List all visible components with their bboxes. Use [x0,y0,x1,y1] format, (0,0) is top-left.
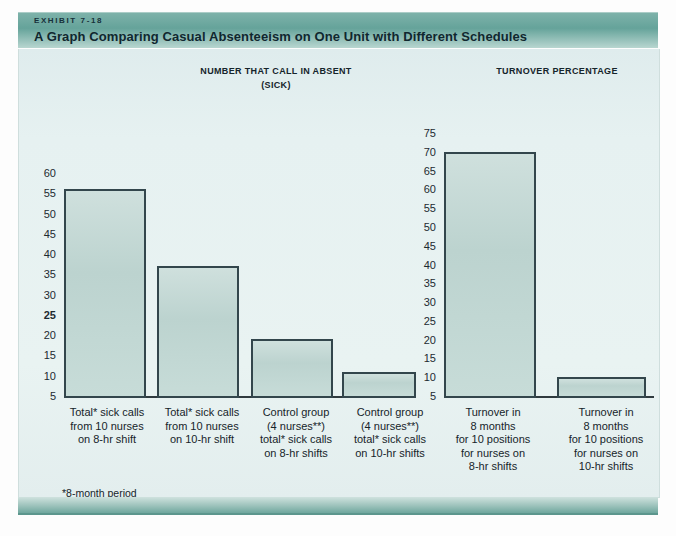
category-label-line: total* sick calls [248,433,344,447]
right-axis-tick-70: 70 [402,147,436,158]
right-axis-tick-35: 35 [402,278,436,289]
category-label-line: Control group [340,406,440,420]
category-label-line: from 10 nurses [58,420,156,434]
left-axis-tick-55: 55 [20,188,56,199]
category-label-1: Total* sick callsfrom 10 nurseson 8-hr s… [58,406,156,447]
category-label-2: Total* sick callsfrom 10 nurseson 10-hr … [152,406,252,447]
category-label-line: on 8-hr shifts [248,447,344,461]
right-axis-tick-15: 15 [402,353,436,364]
category-label-line: Total* sick calls [58,406,156,420]
category-label-line: 8-hr shifts [438,460,548,474]
left-axis-tick-15: 15 [20,350,56,361]
category-label-line: 8 months [438,420,548,434]
category-label-line: from 10 nurses [152,420,252,434]
exhibit-page: EXHIBIT 7-18 A Graph Comparing Casual Ab… [0,0,676,536]
category-label-line: Control group [248,406,344,420]
right-axis-tick-40: 40 [402,260,436,271]
bar-sick-calls-3 [251,339,333,398]
left-axis-tick-45: 45 [20,229,56,240]
left-axis-tick-60: 60 [20,168,56,179]
category-label-5: Turnover in8 monthsfor 10 positionsfor n… [438,406,548,474]
right-axis-tick-45: 45 [402,241,436,252]
category-label-line: for 10 positions [438,433,548,447]
left-axis-tick-40: 40 [20,249,56,260]
exhibit-title: A Graph Comparing Casual Absenteeism on … [34,29,527,44]
bar-sick-calls-1 [64,189,146,398]
right-chart-heading: TURNOVER PERCENTAGE [450,66,664,76]
category-label-line: Turnover in [438,406,548,420]
category-label-line: Turnover in [550,406,662,420]
left-axis-tick-30: 30 [20,290,56,301]
category-label-line: 8 months [550,420,662,434]
left-chart-plot: 60555045403530252015105 [64,100,416,397]
category-label-line: (4 nurses**) [340,420,440,434]
category-label-line: Total* sick calls [152,406,252,420]
left-axis-tick-25: 25 [20,310,56,321]
category-label-4: Control group(4 nurses**)total* sick cal… [340,406,440,460]
right-axis-tick-60: 60 [402,184,436,195]
category-label-line: on 10-hr shifts [340,447,440,461]
left-axis-tick-50: 50 [20,209,56,220]
right-axis-tick-20: 20 [402,335,436,346]
bar-turnover-2 [557,377,646,398]
category-label-line: on 10-hr shift [152,433,252,447]
footer-band [18,497,658,513]
left-axis-tick-35: 35 [20,269,56,280]
category-label-line: 10-hr shifts [550,460,662,474]
left-axis-tick-5: 5 [20,391,56,402]
category-label-line: total* sick calls [340,433,440,447]
right-axis-tick-55: 55 [402,203,436,214]
left-chart-subheading: (SICK) [126,80,426,90]
left-axis-tick-10: 10 [20,371,56,382]
right-axis-tick-25: 25 [402,316,436,327]
right-axis-tick-30: 30 [402,297,436,308]
bar-sick-calls-2 [157,266,239,398]
category-label-6: Turnover in8 monthsfor 10 positionsfor n… [550,406,662,474]
left-chart-heading: NUMBER THAT CALL IN ABSENT [126,66,426,76]
bar-turnover-1 [444,152,536,398]
category-label-3: Control group(4 nurses**)total* sick cal… [248,406,344,460]
right-axis-tick-75: 75 [402,128,436,139]
category-label-line: for nurses on [550,447,662,461]
exhibit-number: EXHIBIT 7-18 [34,16,103,25]
left-axis-tick-20: 20 [20,330,56,341]
right-axis-tick-65: 65 [402,166,436,177]
footer-rule [18,513,658,515]
right-axis-tick-5: 5 [402,391,436,402]
right-axis-tick-10: 10 [402,372,436,383]
category-label-line: for nurses on [438,447,548,461]
right-axis-tick-50: 50 [402,222,436,233]
right-chart-plot: 75706560555045403530252015105 [444,100,654,397]
category-label-line: for 10 positions [550,433,662,447]
category-label-line: (4 nurses**) [248,420,344,434]
category-label-line: on 8-hr shift [58,433,156,447]
